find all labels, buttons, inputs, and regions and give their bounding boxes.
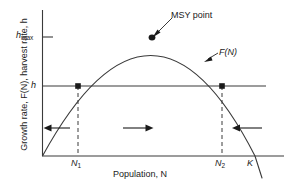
hmax-tick-label: hmax [16, 31, 33, 40]
n2-symbol: N [215, 158, 222, 168]
n1-tick-label: N1 [71, 159, 81, 168]
y-axis-label-symbol-h: h [19, 18, 29, 23]
k-tick-label: K [247, 159, 253, 168]
x-axis-label-text: Population, [113, 169, 158, 179]
y-axis-label-symbol-fn: F(N) [19, 81, 29, 99]
growth-harvest-figure: Growth rate, F(N), harvest rate, h Popul… [0, 0, 284, 186]
arrow-left-of-n1-head [44, 125, 52, 132]
x-axis-label-symbol: N [158, 169, 167, 179]
n2-intersection-marker [219, 83, 225, 89]
y-axis-label: Growth rate, F(N), harvest rate, h [20, 0, 29, 170]
hmax-subscript: max [21, 34, 33, 41]
arrow-right-of-n2-head [232, 125, 240, 132]
curve-label-fn: F(N) [219, 48, 237, 57]
n1-subscript: 1 [78, 162, 82, 169]
n1-symbol: N [71, 158, 78, 168]
n1-intersection-marker [75, 83, 81, 89]
h-tick-label: h [31, 81, 36, 90]
msy-point-label: MSY point [171, 11, 212, 20]
x-axis-label: Population, N [40, 170, 240, 179]
plot-canvas [0, 0, 284, 186]
arrow-between-n1-n2-head [146, 125, 154, 132]
n2-subscript: 2 [222, 162, 226, 169]
y-axis-label-part1: Growth rate, [19, 99, 29, 151]
fn-leader-arrowhead [204, 57, 213, 63]
n2-tick-label: N2 [215, 159, 225, 168]
